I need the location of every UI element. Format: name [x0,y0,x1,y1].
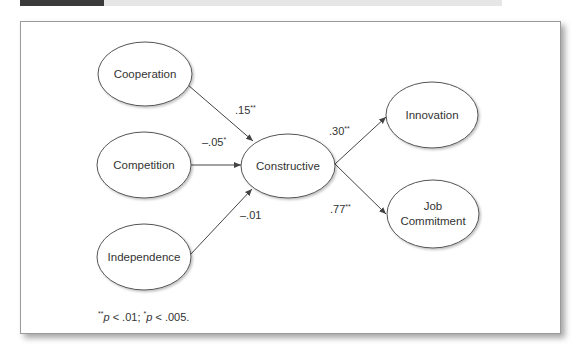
node-cooperation: Cooperation [98,42,192,106]
node-label: Constructive [256,160,320,172]
node-competition: Competition [97,132,191,198]
coef-independence: –.01 [240,209,261,221]
node-constructive: Constructive [241,134,335,198]
significance-footnote: **p < .01; *p < .005. [98,310,189,323]
node-label-line1: Job [424,200,443,212]
coef-competition: –.05* [202,136,226,148]
node-job-commitment: Job Commitment [387,180,479,248]
coef-job-commitment: .77** [330,203,351,215]
node-label: Competition [113,159,174,171]
node-label: Independence [108,251,181,263]
footnote-text: < .01; [110,311,144,323]
coef-innovation: .30** [329,125,350,137]
node-label: Innovation [405,109,458,121]
footnote-text: < .005. [152,311,189,323]
node-label-line2: Commitment [400,215,466,227]
node-innovation: Innovation [386,82,478,148]
node-independence: Independence [97,224,191,290]
coef-cooperation: .15** [235,104,256,116]
path-diagram: Cooperation Competition Independence Con… [0,0,581,352]
node-label: Cooperation [114,68,177,80]
edge-independence-constructive [190,189,252,255]
